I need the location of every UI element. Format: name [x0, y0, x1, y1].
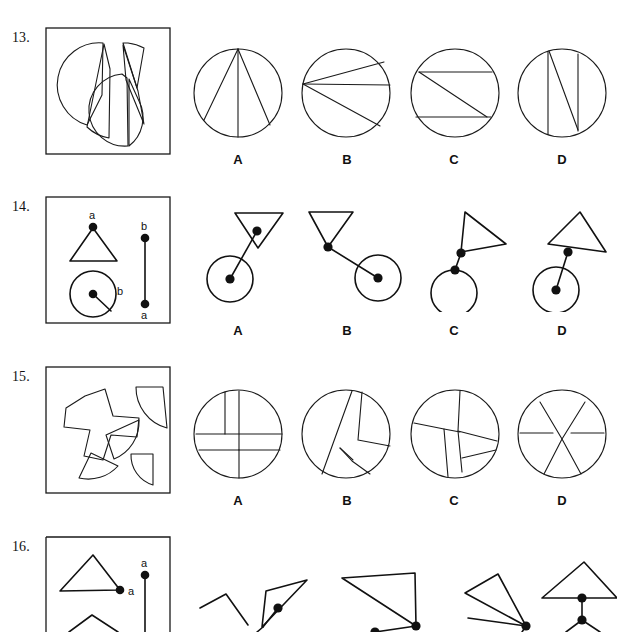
letter-a-segment: a: [141, 557, 148, 569]
cut-lines: [462, 450, 496, 458]
question-14-option-d[interactable]: [518, 200, 612, 312]
question-13-option-a[interactable]: [192, 45, 286, 141]
chord: [238, 49, 270, 125]
option-label-15-c: C: [444, 493, 464, 508]
letter-a-triangle: a: [89, 209, 96, 221]
connector: [230, 231, 257, 279]
stimulus-box-13: [46, 28, 170, 154]
question-15-option-c[interactable]: [408, 386, 502, 482]
cut-lines: [196, 392, 225, 434]
question-14-option-a[interactable]: [198, 200, 298, 312]
option-label-15-d: D: [552, 493, 572, 508]
connector: [375, 626, 416, 632]
connector: [582, 620, 600, 632]
letter-a-triangle: a: [128, 585, 135, 597]
cut-lines: [458, 431, 462, 472]
question-15-stimulus: [40, 361, 180, 501]
connector: [263, 608, 278, 627]
option-circle: [518, 49, 606, 137]
cut-lines: [544, 439, 581, 474]
triangle: [309, 212, 353, 247]
piece-13-4: [123, 45, 144, 124]
chord: [303, 62, 384, 84]
dot-a-segment: [141, 300, 150, 309]
piece-13-2: [87, 44, 110, 138]
triangle: [548, 212, 606, 252]
question-16-stimulus: a a: [40, 531, 180, 632]
piece-15-quarter: [106, 420, 139, 459]
question-13-option-b[interactable]: [300, 45, 394, 141]
chord: [303, 84, 390, 85]
connector: [566, 620, 582, 632]
dot-circle-center: [225, 274, 234, 283]
circle: [431, 270, 477, 312]
dot-a-triangle: [89, 223, 98, 232]
option-label-15-a: A: [228, 493, 248, 508]
question-15-option-d[interactable]: [515, 386, 609, 482]
dot-b-segment: [141, 234, 150, 243]
stimulus-box-14: [46, 197, 170, 323]
option-label-14-b: B: [337, 323, 357, 338]
question-13-option-d[interactable]: [515, 45, 609, 141]
option-circle: [518, 390, 606, 478]
question-number-13: 13.: [0, 30, 30, 46]
cut-lines: [340, 448, 353, 460]
stimulus-box-16: [46, 537, 170, 632]
triangle: [342, 573, 416, 626]
dot-a-segment: [141, 571, 150, 580]
triangle-lower: [69, 615, 118, 632]
piece-15-fan-bl: [79, 453, 118, 479]
question-14-stimulus: a b b a: [40, 191, 180, 331]
chord: [549, 51, 578, 130]
dot-circle-edge: [450, 265, 459, 274]
option-label-13-a: A: [228, 152, 248, 167]
option-label-15-b: B: [337, 493, 357, 508]
question-15-option-b[interactable]: [300, 386, 394, 482]
dot-a-triangle: [116, 586, 125, 595]
radius-line: [93, 294, 111, 311]
question-13-stimulus: [40, 22, 180, 162]
letter-b-segment: b: [141, 220, 147, 232]
letter-a-segment: a: [141, 309, 148, 321]
triangle: [200, 594, 248, 625]
connector: [328, 247, 378, 278]
option-label-14-a: A: [228, 323, 248, 338]
cut-lines: [322, 391, 352, 474]
triangle: [461, 212, 506, 252]
option-label-13-b: B: [337, 152, 357, 167]
question-13-option-c[interactable]: [408, 45, 502, 141]
connector: [556, 252, 568, 290]
question-14-option-c[interactable]: [410, 200, 516, 312]
piece-13-6: [129, 79, 143, 146]
letter-b-circle: b: [117, 285, 123, 297]
cut-lines: [199, 391, 239, 450]
option-label-14-c: C: [444, 323, 464, 338]
triangle-upper: [60, 555, 120, 591]
dot-circle-center: [551, 285, 560, 294]
question-number-16: 16.: [0, 539, 30, 555]
cut-lines: [458, 391, 497, 441]
triangle: [542, 562, 617, 598]
chord: [419, 72, 487, 117]
question-14-option-b[interactable]: [300, 200, 406, 312]
cut-lines: [414, 423, 448, 477]
piece-15-wedge-tr: [136, 387, 167, 428]
question-15-option-a[interactable]: [192, 386, 286, 482]
piece-15-quarter-br: [131, 454, 153, 485]
question-number-15: 15.: [0, 369, 30, 385]
chord: [303, 84, 380, 126]
option-label-14-d: D: [552, 323, 572, 338]
connector: [257, 627, 263, 632]
dot-link: [370, 627, 379, 632]
triangle: [70, 228, 117, 261]
dot-circle-center: [373, 273, 382, 282]
question-16-option-e[interactable]: [522, 540, 617, 632]
question-number-14: 14.: [0, 199, 30, 215]
option-label-13-c: C: [444, 152, 464, 167]
option-label-13-d: D: [552, 152, 572, 167]
option-circle: [411, 390, 499, 478]
option-circle: [411, 49, 499, 137]
option-circle: [302, 390, 390, 478]
